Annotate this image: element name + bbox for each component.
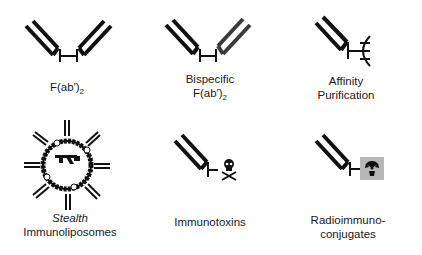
fab2-label: F(ab′)2	[0, 80, 137, 94]
fab2-fragment-icon	[0, 0, 140, 70]
affinity-panel: Affinity Purification	[280, 0, 422, 120]
affinity-purification-icon	[280, 0, 422, 70]
affinity-label: Affinity Purification	[276, 74, 416, 102]
immunotoxin-skull-icon	[140, 120, 280, 190]
stealth-panel: Stealth Immunoliposomes	[0, 120, 140, 255]
stealth-label: Stealth Immunoliposomes	[0, 211, 140, 239]
bispecific-panel: Bispecific F(ab′)2	[140, 0, 280, 120]
radio-panel: Radioimmuno- conjugates	[280, 120, 422, 255]
immunotoxins-panel: Immunotoxins	[140, 120, 280, 255]
bispecific-fab2-icon	[140, 0, 280, 70]
immunotoxins-label: Immunotoxins	[140, 215, 280, 229]
radio-label: Radioimmuno- conjugates	[278, 213, 418, 241]
fab2-panel: F(ab′)2	[0, 0, 140, 120]
stealth-immunoliposome-icon	[0, 120, 140, 210]
radioimmunoconjugate-icon	[280, 120, 422, 190]
bispecific-label: Bispecific F(ab′)2	[140, 72, 280, 100]
